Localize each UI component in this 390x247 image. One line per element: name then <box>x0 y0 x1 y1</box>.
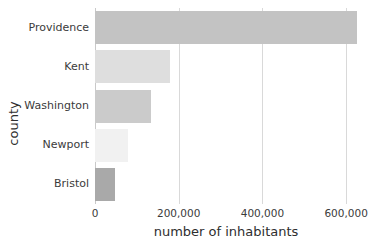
x-axis-tick-labels: 0200,000400,000600,000 <box>95 207 357 223</box>
y-tick-label-providence: Providence <box>0 22 89 34</box>
x-axis-title: number of inhabitants <box>95 224 357 239</box>
bar-providence[interactable] <box>95 11 357 44</box>
y-tick-label-newport: Newport <box>0 139 89 151</box>
x-tick-label-400000: 400,000 <box>241 207 284 219</box>
x-tick-label-600000: 600,000 <box>324 207 367 219</box>
bar-bristol[interactable] <box>95 168 115 201</box>
y-axis-tick-labels: ProvidenceKentWashingtonNewportBristol <box>0 8 89 204</box>
plot-area <box>95 8 357 204</box>
bars <box>95 8 357 204</box>
bar-newport[interactable] <box>95 129 128 162</box>
x-tick-label-0: 0 <box>92 207 99 219</box>
y-tick-label-kent: Kent <box>0 61 89 73</box>
bar-chart: county ProvidenceKentWashingtonNewportBr… <box>0 0 390 247</box>
y-tick-label-bristol: Bristol <box>0 178 89 190</box>
x-tick-label-200000: 200,000 <box>157 207 200 219</box>
bar-washington[interactable] <box>95 90 151 123</box>
y-tick-label-washington: Washington <box>0 100 89 112</box>
bar-kent[interactable] <box>95 50 170 83</box>
